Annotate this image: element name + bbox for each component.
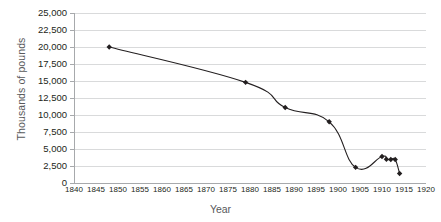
y-tick-mark	[70, 149, 74, 150]
y-tick-mark	[70, 30, 74, 31]
y-tick-label: 20,000	[38, 41, 67, 52]
y-tick-mark	[70, 13, 74, 14]
y-tick-mark	[70, 81, 74, 82]
y-tick-mark	[70, 166, 74, 167]
data-point-marker	[283, 105, 288, 110]
y-tick-mark	[70, 115, 74, 116]
line-chart: Thousands of pounds Year 184018451850185…	[0, 0, 441, 222]
y-tick-label: 25,000	[38, 7, 67, 18]
y-tick-label: 10,000	[38, 109, 67, 120]
y-tick-label: 0	[62, 177, 67, 188]
series-line	[109, 47, 399, 173]
y-tick-label: 17,500	[38, 58, 67, 69]
y-tick-mark	[70, 47, 74, 48]
data-point-marker	[397, 171, 402, 176]
y-tick-mark	[70, 64, 74, 65]
y-tick-label: 5,000	[43, 143, 67, 154]
y-tick-label: 15,000	[38, 75, 67, 86]
y-tick-label: 7,500	[43, 126, 67, 137]
y-tick-label: 2,500	[43, 160, 67, 171]
data-point-marker	[379, 154, 384, 159]
data-point-marker	[107, 44, 112, 49]
data-point-marker	[393, 157, 398, 162]
y-tick-label: 22,500	[38, 24, 67, 35]
y-tick-mark	[70, 183, 74, 184]
y-tick-mark	[70, 98, 74, 99]
y-tick-mark	[70, 132, 74, 133]
y-tick-label: 12,500	[38, 92, 67, 103]
data-point-marker	[384, 157, 389, 162]
data-point-marker	[243, 80, 248, 85]
